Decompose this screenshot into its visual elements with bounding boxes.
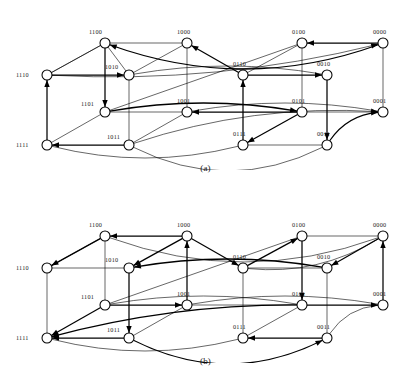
graph-edge xyxy=(110,296,297,304)
edge-arrowhead xyxy=(110,45,118,50)
graph-node-label: 1000 xyxy=(177,221,190,228)
graph-node[interactable] xyxy=(124,140,134,150)
graph-node-label: 0010 xyxy=(317,60,330,67)
graph-node[interactable] xyxy=(378,107,388,117)
edge-arrowhead xyxy=(315,340,322,346)
graph-node-label: 0111 xyxy=(233,130,246,137)
label-layer: 1100100001000000111010100110001011011001… xyxy=(16,221,386,341)
edge-arrowhead xyxy=(110,233,117,238)
graph-node-label: 1010 xyxy=(105,256,118,263)
graph-node[interactable] xyxy=(322,140,332,150)
graph-node[interactable] xyxy=(297,107,307,117)
graph-node-label: 1100 xyxy=(89,221,102,228)
graph-node[interactable] xyxy=(378,231,388,241)
panel-b-graph: 1100100001000000111010100110001011011001… xyxy=(0,193,411,363)
graph-edge xyxy=(51,307,100,335)
graph-node[interactable] xyxy=(182,231,192,241)
graph-edge xyxy=(330,112,378,140)
graph-node[interactable] xyxy=(238,333,248,343)
edge-arrowhead xyxy=(331,260,338,266)
graph-node-label: 1101 xyxy=(81,100,94,107)
graph-node-label: 1111 xyxy=(16,334,29,341)
graph-node[interactable] xyxy=(124,70,134,80)
edge-arrowhead xyxy=(248,335,255,340)
panel-a-graph: 1100100001000000111010100110001011011001… xyxy=(0,0,411,170)
graph-node[interactable] xyxy=(42,263,52,273)
edge-arrowhead xyxy=(192,109,199,114)
edge-arrowhead xyxy=(184,241,189,248)
edge-arrowhead xyxy=(247,137,254,143)
graph-edge xyxy=(110,103,297,111)
graph-edge xyxy=(134,66,322,74)
graph-node-label: 0111 xyxy=(233,323,246,330)
graph-node-label: 0100 xyxy=(292,221,305,228)
graph-edge xyxy=(330,305,378,333)
graph-node-label: 0110 xyxy=(233,253,246,260)
graph-edge xyxy=(51,114,100,142)
graph-node-label: 0011 xyxy=(317,130,330,137)
graph-node[interactable] xyxy=(297,38,307,48)
graph-node-label: 0001 xyxy=(373,97,386,104)
edge-arrowhead xyxy=(290,238,297,244)
edge-arrowhead xyxy=(44,80,49,87)
edge-layer xyxy=(44,40,383,170)
graph-edge xyxy=(247,238,297,265)
graph-node[interactable] xyxy=(42,333,52,343)
graph-node[interactable] xyxy=(322,70,332,80)
graph-node[interactable] xyxy=(238,70,248,80)
edge-arrowhead xyxy=(371,302,378,307)
graph-node[interactable] xyxy=(100,38,110,48)
graph-node[interactable] xyxy=(378,300,388,310)
graph-node-label: 1110 xyxy=(16,264,29,271)
graph-edge xyxy=(110,238,298,304)
graph-edge xyxy=(110,45,298,111)
panel-a: 1100100001000000111010100110001011011001… xyxy=(0,0,411,193)
graph-node[interactable] xyxy=(182,38,192,48)
graph-node[interactable] xyxy=(238,263,248,273)
graph-node-label: 0011 xyxy=(317,323,330,330)
graph-node-label: 0100 xyxy=(292,28,305,35)
graph-node[interactable] xyxy=(42,70,52,80)
graph-edge xyxy=(191,238,238,265)
graph-node[interactable] xyxy=(322,263,332,273)
graph-node[interactable] xyxy=(322,333,332,343)
graph-node[interactable] xyxy=(42,140,52,150)
graph-edge xyxy=(247,114,297,142)
graph-node-label: 1011 xyxy=(107,326,120,333)
panel-b: 1100100001000000111010100110001011011001… xyxy=(0,193,411,386)
graph-edge xyxy=(192,103,378,111)
graph-edge xyxy=(52,146,238,158)
edge-arrowhead xyxy=(307,40,314,45)
graph-node-label: 0101 xyxy=(292,290,305,297)
graph-edge xyxy=(133,114,182,142)
graph-node[interactable] xyxy=(124,263,134,273)
edge-arrowhead xyxy=(191,45,198,51)
graph-node-label: 0000 xyxy=(373,221,386,228)
graph-node-label: 1001 xyxy=(177,97,190,104)
graph-node[interactable] xyxy=(124,333,134,343)
graph-node[interactable] xyxy=(297,231,307,241)
graph-node-label: 1101 xyxy=(81,293,94,300)
graph-node[interactable] xyxy=(297,300,307,310)
graph-node-label: 0000 xyxy=(373,28,386,35)
graph-edge xyxy=(331,238,378,265)
edge-arrowhead xyxy=(126,326,131,333)
graph-node[interactable] xyxy=(378,38,388,48)
graph-node[interactable] xyxy=(182,107,192,117)
graph-node-label: 1111 xyxy=(16,141,29,148)
graph-edge xyxy=(247,307,297,335)
graph-edge xyxy=(134,259,322,267)
graph-node[interactable] xyxy=(100,107,110,117)
label-layer: 1100100001000000111010100110001011011001… xyxy=(16,28,386,148)
graph-node-label: 1100 xyxy=(89,28,102,35)
panel-a-caption: (a) xyxy=(0,163,411,173)
graph-node-label: 1000 xyxy=(177,28,190,35)
graph-edge xyxy=(52,305,297,337)
graph-edge xyxy=(192,296,378,304)
graph-node-label: 1010 xyxy=(105,63,118,70)
graph-node[interactable] xyxy=(182,300,192,310)
graph-node[interactable] xyxy=(100,300,110,310)
graph-node[interactable] xyxy=(100,231,110,241)
graph-node[interactable] xyxy=(238,140,248,150)
graph-node-label: 0101 xyxy=(292,97,305,104)
